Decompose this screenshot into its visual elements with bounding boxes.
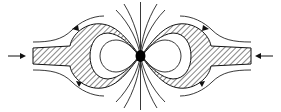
left-hatched-ring xyxy=(33,24,140,88)
left-inner-streamline xyxy=(100,40,140,72)
flow-diagram xyxy=(0,0,281,112)
right-inner-streamline xyxy=(141,40,181,72)
left-lobe xyxy=(33,24,140,88)
upper-left-flow-arrow xyxy=(72,25,79,31)
lower-right-flow-arrow xyxy=(199,81,205,87)
center-point xyxy=(136,50,146,62)
left-inflow-arrow xyxy=(8,53,26,59)
right-inflow-arrow xyxy=(255,53,273,59)
right-hatched-ring xyxy=(141,24,251,88)
right-lobe xyxy=(141,24,251,88)
